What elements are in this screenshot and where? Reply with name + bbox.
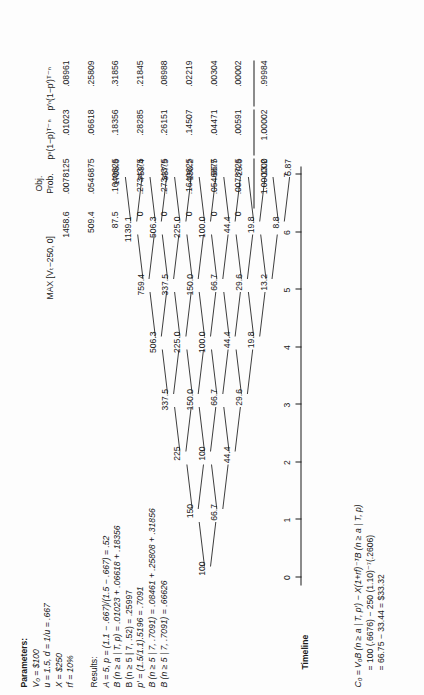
result-line: A = 5, p = (1.1 − .667)/(1.5 − .667) = .… xyxy=(100,508,112,687)
table-total-rule xyxy=(253,60,254,106)
valuation-line: = 66.75 − 33.44 = $33.32 xyxy=(375,504,387,687)
result-line: p′ = (1.5/1.1).5196 = .7091 xyxy=(134,508,146,687)
table-total-prob-pprime: .99984 xyxy=(258,60,269,106)
table-cell-payoff: 1458.6 xyxy=(60,211,71,265)
table-cell-obj-prob: .2734375 xyxy=(158,158,169,208)
table-total-obj-prob: 1.000000 xyxy=(258,158,269,208)
parameters-heading: Parameters: xyxy=(18,637,28,687)
table-cell-prob-p: .01023 xyxy=(60,109,71,155)
table-cell-prob-p: .00591 xyxy=(232,109,243,155)
table-total-rule xyxy=(253,109,254,155)
table-cell-obj-prob: .0546875 xyxy=(208,158,219,208)
parameter-line: u = 1.5, d = 1/u = .667 xyxy=(41,603,53,687)
table-cell-payoff: 509.4 xyxy=(85,211,96,265)
table-cell-obj-prob: .0078725 xyxy=(232,158,243,208)
results-heading: Results: xyxy=(88,508,100,687)
table-cell-payoff: 0 xyxy=(208,211,219,265)
parameter-line: V₀ = $100 xyxy=(30,603,42,687)
table-cell-obj-prob: .2734375 xyxy=(134,158,145,208)
table-header-riskneutral-prob: p′ⁿ(1−p′)ᵀ⁻ⁿ xyxy=(44,52,55,110)
table-cell-prob-p: .04471 xyxy=(208,109,219,155)
table-cell-prob-pprime: .31856 xyxy=(109,60,120,106)
parameter-line: rf = 10% xyxy=(64,603,76,687)
table-header-obj-prob-line2: Prob. xyxy=(44,158,55,208)
result-line: B (n ≥ 5 | 7, .7091) = .08461 + .25808 +… xyxy=(146,508,158,687)
table-cell-prob-pprime: .02219 xyxy=(183,60,194,106)
table-cell-payoff: 0 xyxy=(183,211,194,265)
table-cell-prob-p: .06618 xyxy=(85,109,96,155)
figure-root: 10015066.722510044.4337.5150.066.729.650… xyxy=(0,0,424,695)
table-cell-prob-pprime: .00002 xyxy=(232,60,243,106)
table-cell-prob-pprime: .00304 xyxy=(208,60,219,106)
table-header-payoff: MAX [Vₜ−250, 0] xyxy=(44,205,55,299)
table-cell-obj-prob: .0078125 xyxy=(60,158,71,208)
table-cell-obj-prob: .0546875 xyxy=(85,158,96,208)
table-cell-payoff: 0 xyxy=(158,211,169,265)
results-block: Results: A = 5, p = (1.1 − .667)/(1.5 − … xyxy=(88,508,169,687)
parameters-block: Parameters: V₀ = $100 u = 1.5, d = 1/u =… xyxy=(18,603,76,687)
table-cell-prob-p: .26151 xyxy=(158,109,169,155)
table-cell-prob-p: .18356 xyxy=(109,109,120,155)
table-cell-prob-pprime: .25809 xyxy=(85,60,96,106)
table-total-prob-p: 1.00002 xyxy=(258,109,269,155)
result-line: B (n ≥ 5 | 7, .7091) = .66626 xyxy=(158,508,170,687)
table-cell-payoff: 0 xyxy=(232,211,243,265)
result-line: B (n ≥ 5 | 7, .52) = .25997 xyxy=(123,508,135,687)
table-cell-prob-pprime: .08988 xyxy=(158,60,169,106)
table-cell-obj-prob: .1640625 xyxy=(109,158,120,208)
table-cell-payoff: 87.5 xyxy=(109,211,120,265)
table-cell-payoff: 0 xyxy=(134,211,145,265)
table-cell-prob-pprime: .08961 xyxy=(60,60,71,106)
valuation-block: C₀ = V₀B (n ≥ a | T, p′) − X(1+rf)⁻ᵀB (n… xyxy=(352,504,387,687)
table-total-rule xyxy=(253,158,254,208)
figure-canvas: 10015066.722510044.4337.5150.066.729.650… xyxy=(0,0,424,695)
table-cell-prob-p: .28285 xyxy=(134,109,145,155)
parameter-line: X = $250 xyxy=(53,603,65,687)
valuation-line: C₀ = V₀B (n ≥ a | T, p′) − X(1+rf)⁻ᵀB (n… xyxy=(352,504,364,687)
table-cell-prob-p: .14507 xyxy=(183,109,194,155)
valuation-line: = 100 (.6676) − 250 (1.10)⁻⁷(.2606) xyxy=(364,504,376,687)
table-cell-prob-pprime: .21845 xyxy=(134,60,145,106)
table-header-subjective-prob: pⁿ(1−p)ᵀ⁻ⁿ xyxy=(44,103,55,159)
table-header-obj-prob-line1: Obj. xyxy=(33,158,44,208)
result-line: B (n ≥ a | T, p) = .01023 + .06618 + .18… xyxy=(111,508,123,687)
table-cell-obj-prob: .1640625 xyxy=(183,158,194,208)
